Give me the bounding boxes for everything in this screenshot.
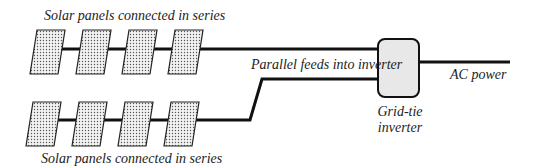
solar-diagram: Solar panels connected in series Solar p…: [0, 0, 535, 168]
solar-panel: [30, 30, 65, 74]
ac-power-label: AC power: [449, 67, 507, 82]
parallel-feeds-label: Parallel feeds into inverter: [250, 57, 403, 72]
top-panel-string: [30, 30, 203, 74]
solar-panel: [168, 30, 203, 74]
solar-panel: [122, 30, 157, 74]
solar-panel: [72, 102, 107, 146]
inverter-label-line1: Grid-tie: [377, 104, 422, 119]
solar-panel: [76, 30, 111, 74]
bottom-panel-string: [26, 102, 199, 146]
bottom-string-label: Solar panels connected in series: [41, 151, 223, 166]
top-string-label: Solar panels connected in series: [44, 8, 226, 23]
solar-panel: [118, 102, 153, 146]
solar-panel: [164, 102, 199, 146]
inverter-label-line2: inverter: [378, 120, 423, 135]
solar-panel: [26, 102, 61, 146]
